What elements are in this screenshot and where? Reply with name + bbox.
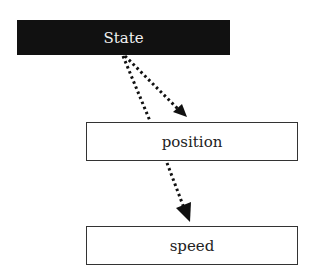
node-speed-label: speed <box>170 237 215 255</box>
arrowhead-icon <box>176 202 191 222</box>
node-state: State <box>17 20 230 55</box>
node-position: position <box>86 122 298 161</box>
node-state-label: State <box>103 29 143 47</box>
node-position-label: position <box>162 133 223 151</box>
node-speed: speed <box>86 226 298 265</box>
arrowhead-icon <box>173 104 187 117</box>
edge-state-to-position <box>125 56 187 117</box>
